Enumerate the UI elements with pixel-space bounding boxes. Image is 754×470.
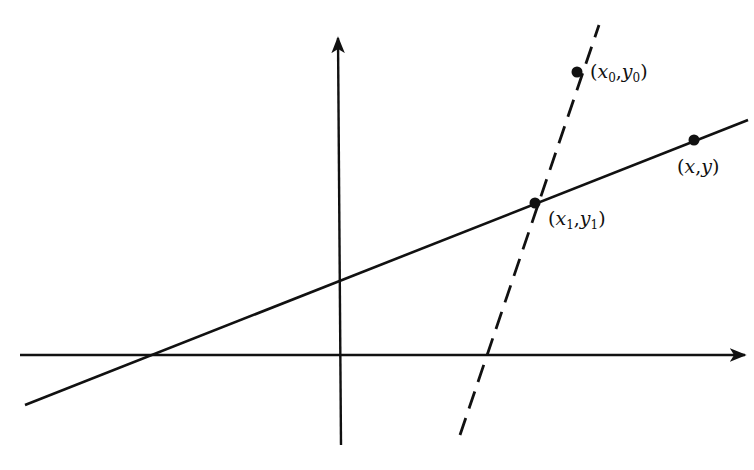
sub-1: 1 — [566, 218, 574, 232]
point-x1-y1 — [530, 198, 541, 209]
label-x0-y0: (x0,y0) — [590, 62, 648, 84]
var-x: x — [597, 60, 608, 82]
var-x: x — [555, 207, 566, 229]
y-axis — [338, 38, 341, 445]
solid-line — [25, 120, 748, 405]
paren-close: ) — [640, 60, 647, 82]
point-x0-y0 — [572, 67, 583, 78]
sub-0: 0 — [608, 71, 616, 85]
label-x-y: (x,y) — [677, 157, 719, 176]
label-x1-y1: (x1,y1) — [548, 209, 606, 231]
var-y: y — [701, 155, 712, 177]
var-y: y — [622, 60, 633, 82]
paren-close: ) — [712, 155, 719, 177]
var-x: x — [684, 155, 695, 177]
var-y: y — [580, 207, 591, 229]
point-x-y — [689, 135, 700, 146]
paren-close: ) — [598, 207, 605, 229]
